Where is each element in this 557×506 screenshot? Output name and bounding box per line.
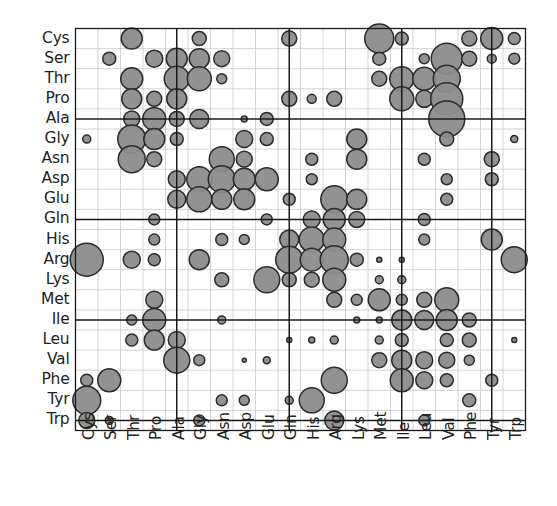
y-tick-label-ser: Ser (44, 49, 69, 67)
x-tick-label-asp: Asp (237, 412, 255, 440)
x-tick-label-pro: Pro (147, 416, 165, 440)
x-tick-label-thr: Thr (125, 414, 143, 439)
y-tick-label-cys: Cys (42, 29, 69, 47)
y-tick-label-ile: Ile (52, 310, 70, 328)
x-tick-label-gln: Gln (282, 414, 300, 440)
y-tick-label-trp: Trp (47, 410, 70, 428)
x-tick-label-val: Val (440, 417, 458, 440)
x-tick-label-ala: Ala (170, 416, 188, 440)
x-tick-label-glu: Glu (260, 414, 278, 440)
x-tick-label-tyr: Tyr (485, 418, 503, 440)
y-tick-label-ala: Ala (46, 109, 70, 127)
x-tick-label-asn: Asn (215, 412, 233, 440)
y-tick-label-tyr: Tyr (48, 390, 70, 408)
y-tick-label-asn: Asn (42, 149, 70, 167)
x-tick-label-arg: Arg (327, 414, 345, 440)
x-tick-label-gly: Gly (192, 415, 210, 440)
x-tick-label-cys: Cys (80, 412, 98, 439)
x-tick-label-phe: Phe (462, 411, 480, 439)
x-tick-label-ser: Ser (102, 414, 120, 439)
bubble-layer (70, 24, 527, 430)
x-tick-label-trp: Trp (507, 417, 525, 440)
y-tick-label-asp: Asp (42, 169, 70, 187)
y-tick-label-gln: Gln (44, 209, 70, 227)
y-tick-label-thr: Thr (44, 69, 69, 87)
x-tick-label-met: Met (372, 411, 390, 439)
y-tick-label-val: Val (47, 350, 70, 368)
y-tick-label-his: His (46, 230, 69, 248)
x-tick-label-leu: Leu (417, 412, 435, 439)
y-tick-label-glu: Glu (44, 189, 70, 207)
x-tick-label-his: His (305, 416, 323, 439)
x-tick-label-lys: Lys (350, 416, 368, 440)
y-tick-label-leu: Leu (42, 330, 69, 348)
y-tick-label-lys: Lys (46, 270, 70, 288)
y-tick-label-pro: Pro (46, 89, 70, 107)
x-tick-label-ile: Ile (395, 422, 413, 440)
bubble-matrix-figure: CysSerThrProAlaGlyAsnAspGluGlnHisArgLysM… (0, 0, 557, 506)
y-tick-label-met: Met (41, 290, 69, 308)
y-tick-label-phe: Phe (41, 370, 69, 388)
y-tick-label-arg: Arg (44, 250, 70, 268)
y-tick-label-gly: Gly (45, 129, 70, 147)
